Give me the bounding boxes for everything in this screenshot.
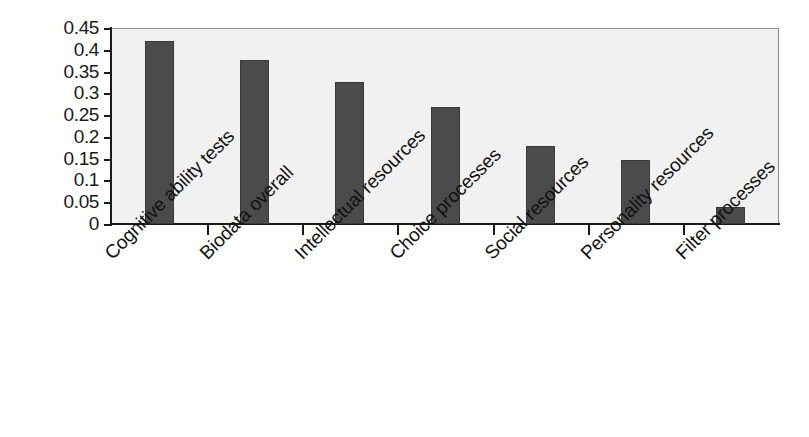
y-axis-tick-label: 0.05	[64, 191, 99, 213]
y-axis-tick-mark	[104, 93, 112, 95]
y-axis-tick-mark	[104, 202, 112, 204]
y-axis-tick-label: 0.2	[74, 126, 99, 148]
bar-chart: 0.450.40.350.30.250.20.150.10.050 Cognit…	[0, 0, 809, 437]
y-axis-tick-mark	[104, 159, 112, 161]
y-axis-tick-mark	[104, 137, 112, 139]
y-axis-tick-mark	[104, 50, 112, 52]
y-axis-tick-label: 0.15	[64, 148, 99, 170]
y-axis-tick-mark	[104, 72, 112, 74]
y-axis-tick-label: 0.25	[64, 104, 99, 126]
y-axis-tick-label: 0.3	[74, 82, 99, 104]
y-axis-tick-mark	[104, 115, 112, 117]
y-axis-tick-label: 0.35	[64, 61, 99, 83]
y-axis-tick-mark	[104, 180, 112, 182]
y-axis-tick-label: 0	[89, 213, 99, 235]
y-axis-tick-label: 0.45	[64, 17, 99, 39]
y-axis-tick-label: 0.4	[74, 39, 99, 61]
y-axis-tick-mark	[104, 224, 112, 226]
y-axis-line	[110, 27, 112, 226]
y-axis-tick-label: 0.1	[74, 169, 99, 191]
y-axis-tick-mark	[104, 28, 112, 30]
